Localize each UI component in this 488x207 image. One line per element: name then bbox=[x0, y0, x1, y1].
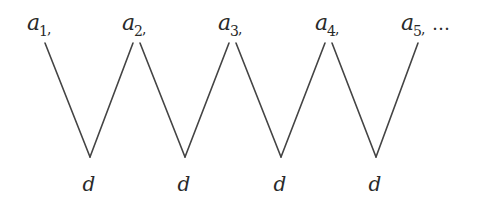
edge-line bbox=[236, 43, 281, 157]
bottom-label-d1: d bbox=[83, 172, 96, 196]
bottom-label-d3: d bbox=[274, 172, 287, 196]
edge-line bbox=[45, 43, 90, 157]
bottom-label-d4: d bbox=[369, 172, 382, 196]
edge-line bbox=[332, 43, 376, 157]
top-label-a4: a 4 , bbox=[315, 10, 339, 39]
top-label-comma: , bbox=[142, 21, 146, 37]
top-label-comma: , bbox=[421, 21, 425, 37]
diagram-edges bbox=[45, 43, 418, 157]
top-label-comma: , bbox=[47, 21, 51, 37]
top-label-comma: , bbox=[238, 21, 242, 37]
top-label-a1: a 1 , bbox=[27, 10, 51, 39]
edge-line bbox=[376, 43, 418, 157]
top-label-a5: a 5 , bbox=[401, 10, 425, 39]
ellipsis: … bbox=[432, 13, 450, 34]
top-label-a3: a 3 , bbox=[218, 10, 242, 39]
v-chain-diagram: a 1 , a 2 , a 3 , a 4 , a 5 , … d d d d bbox=[0, 0, 488, 207]
edge-line bbox=[281, 43, 325, 157]
top-label-a2: a 2 , bbox=[122, 10, 146, 39]
top-label-comma: , bbox=[335, 21, 339, 37]
edge-line bbox=[140, 43, 185, 157]
edge-line bbox=[185, 43, 229, 157]
bottom-label-d2: d bbox=[178, 172, 191, 196]
edge-line bbox=[90, 43, 133, 157]
